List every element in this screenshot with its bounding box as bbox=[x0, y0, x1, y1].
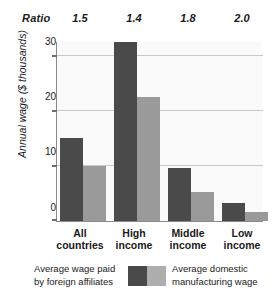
bar-foreign-affiliates-low-income bbox=[222, 203, 245, 221]
y-tick-mark-30 bbox=[52, 55, 57, 57]
bar-foreign-affiliates-all-countries bbox=[60, 138, 83, 221]
bar-domestic-wage-middle-income bbox=[191, 192, 214, 221]
ratio-value-high-income: 1.4 bbox=[114, 12, 154, 24]
bar-domestic-wage-high-income bbox=[137, 97, 160, 221]
x-axis-label-line2: income bbox=[211, 239, 273, 251]
legend-label-domestic-wage: Average domestic manufacturing wage bbox=[172, 263, 270, 288]
ratio-value-middle-income: 1.8 bbox=[168, 12, 208, 24]
x-axis-label-line1: High bbox=[103, 227, 165, 239]
x-axis-label-line2: income bbox=[157, 239, 219, 251]
legend-label-foreign-affiliates: Average wage paid by foreign affiliates bbox=[34, 263, 126, 288]
x-axis-label-line1: All bbox=[49, 227, 111, 239]
chart-legend: Average wage paid by foreign affiliates … bbox=[0, 263, 273, 293]
plot-area bbox=[56, 42, 262, 222]
ratio-value-all-countries: 1.5 bbox=[60, 12, 100, 24]
x-axis-label-line1: Middle bbox=[157, 227, 219, 239]
bar-foreign-affiliates-middle-income bbox=[168, 168, 191, 221]
y-tick-label-0: 0 bbox=[30, 202, 56, 213]
legend-label-line1: Average wage paid bbox=[34, 263, 115, 274]
legend-label-line2: by foreign affiliates bbox=[34, 276, 113, 287]
y-tick-label-10: 10 bbox=[30, 146, 56, 157]
x-axis-label-high-income: High income bbox=[103, 227, 165, 251]
x-axis-baseline bbox=[57, 221, 263, 223]
bar-group-middle-income bbox=[168, 43, 216, 221]
y-axis-tick-labels: 30 20 10 0 bbox=[0, 42, 56, 223]
x-axis-label-line2: countries bbox=[49, 239, 111, 251]
y-tick-mark-20 bbox=[52, 110, 57, 112]
x-axis-label-line2: income bbox=[103, 239, 165, 251]
bar-group-low-income bbox=[222, 43, 270, 221]
x-axis-label-middle-income: Middle income bbox=[157, 227, 219, 251]
legend-label-line1: Average domestic bbox=[172, 263, 248, 274]
bar-domestic-wage-low-income bbox=[245, 212, 268, 221]
x-axis-label-all-countries: All countries bbox=[49, 227, 111, 251]
bar-group-high-income bbox=[114, 43, 162, 221]
legend-swatch-foreign-affiliates bbox=[128, 266, 147, 286]
legend-label-line2: manufacturing wage bbox=[172, 276, 258, 287]
bar-foreign-affiliates-high-income bbox=[114, 42, 137, 221]
bar-chart: Ratio 1.5 1.4 1.8 2.0 Annual wage ($ tho… bbox=[0, 0, 273, 302]
y-tick-label-20: 20 bbox=[30, 91, 56, 102]
y-tick-mark-10 bbox=[52, 165, 57, 167]
legend-swatch-domestic-wage bbox=[147, 266, 166, 286]
y-tick-label-30: 30 bbox=[30, 36, 56, 47]
ratio-value-low-income: 2.0 bbox=[222, 12, 262, 24]
x-axis-label-line1: Low bbox=[211, 227, 273, 239]
ratio-row: Ratio 1.5 1.4 1.8 2.0 bbox=[0, 12, 273, 30]
bar-domestic-wage-all-countries bbox=[83, 166, 106, 221]
x-axis-label-low-income: Low income bbox=[211, 227, 273, 251]
bar-group-all-countries bbox=[60, 43, 108, 221]
